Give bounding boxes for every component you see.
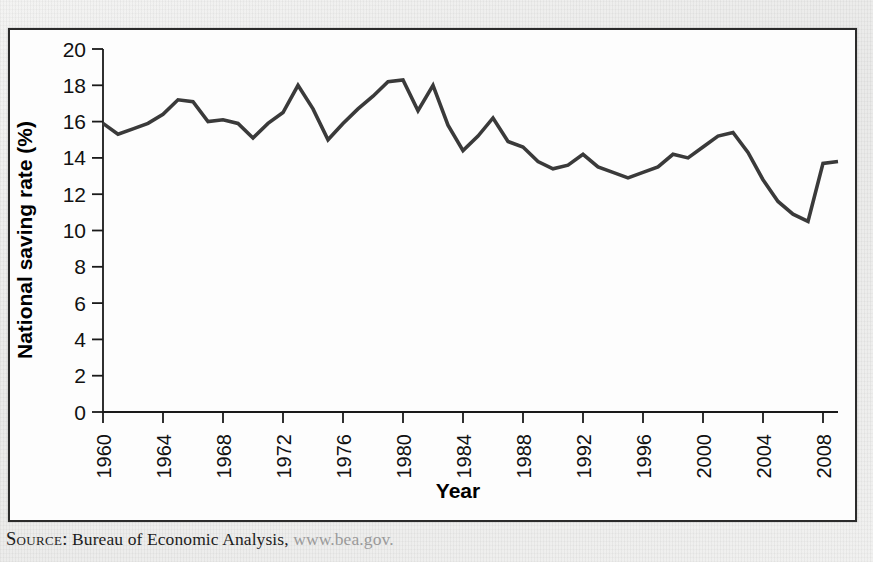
y-tick-label: 16 bbox=[63, 110, 86, 133]
y-tick-label: 12 bbox=[63, 183, 86, 206]
y-axis-tick-labels: 02468101214161820 bbox=[63, 38, 87, 424]
y-axis-title: National saving rate (%) bbox=[13, 121, 36, 359]
x-tick-label: 1964 bbox=[153, 434, 175, 479]
y-tick-label: 6 bbox=[74, 292, 86, 315]
y-tick-label: 10 bbox=[63, 219, 86, 242]
source-note: Source: Bureau of Economic Analysis, www… bbox=[6, 529, 394, 550]
saving-rate-line-series bbox=[103, 80, 838, 222]
y-tick-label: 4 bbox=[74, 328, 86, 351]
x-tick-label: 1968 bbox=[213, 434, 235, 479]
x-tick-label: 1988 bbox=[513, 434, 535, 479]
y-tick-label: 18 bbox=[63, 74, 86, 97]
source-body-text: Bureau of Economic Analysis, bbox=[68, 529, 294, 549]
national-saving-rate-line-chart: 02468101214161820 1960196419681972197619… bbox=[10, 30, 855, 520]
source-url-text: www.bea.gov. bbox=[293, 529, 394, 549]
x-axis-title: Year bbox=[436, 479, 480, 502]
x-tick-label: 1996 bbox=[633, 434, 655, 479]
y-tick-label: 0 bbox=[74, 401, 86, 424]
source-label: Source: bbox=[6, 529, 68, 549]
x-axis-tick-labels: 1960196419681972197619801984198819921996… bbox=[93, 434, 835, 479]
x-tick-label: 2004 bbox=[753, 434, 775, 479]
x-tick-label: 1992 bbox=[573, 434, 595, 479]
figure-frame: 02468101214161820 1960196419681972197619… bbox=[8, 28, 857, 522]
x-tick-label: 1960 bbox=[93, 434, 115, 479]
x-tick-label: 1972 bbox=[273, 434, 295, 479]
y-tick-label: 2 bbox=[74, 364, 86, 387]
x-tick-label: 2008 bbox=[813, 434, 835, 479]
x-tick-label: 2000 bbox=[693, 434, 715, 479]
x-tick-label: 1984 bbox=[453, 434, 475, 479]
x-tick-label: 1976 bbox=[333, 434, 355, 479]
x-tick-label: 1980 bbox=[393, 434, 415, 479]
y-tick-label: 8 bbox=[74, 255, 86, 278]
axes-group bbox=[92, 49, 838, 423]
y-tick-label: 20 bbox=[63, 38, 86, 61]
y-tick-label: 14 bbox=[63, 146, 87, 169]
